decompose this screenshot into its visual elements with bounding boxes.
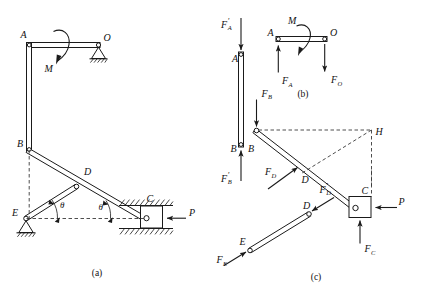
panel-b-label-moment: M	[287, 15, 297, 26]
angle-theta-right	[103, 201, 113, 224]
panel-c-bc-pin-c	[353, 205, 358, 210]
panel-c-ed-label-e: E	[239, 236, 246, 247]
label-a-joint-o: O	[104, 32, 111, 43]
svg-text:B: B	[268, 93, 272, 100]
joint-pin-a	[27, 43, 31, 47]
joint-pin-d	[74, 184, 79, 189]
panel-c-label-fa-prime: F ′ A	[220, 17, 232, 32]
svg-text:B: B	[228, 178, 232, 185]
panel-c-label-fb-prime: F ′ B	[220, 171, 232, 186]
panel-c-dashed-hd	[301, 130, 372, 174]
panel-b-label-fa: F A	[281, 75, 293, 88]
panel-c-member-ab: A B F ′ A F ′ B	[220, 17, 244, 186]
svg-text:A: A	[227, 24, 232, 31]
panel-c-ed-pin-e	[248, 248, 253, 253]
panel-c-label-fe: F E	[216, 254, 228, 267]
panel-c-bc-label-b: B	[248, 143, 254, 154]
panel-c-member-bc: B D C H F B F D F C P	[248, 88, 405, 256]
panel-c-bc-label-c: C	[362, 185, 369, 196]
caption-b: (b)	[297, 89, 308, 100]
panel-b-pin-o	[323, 37, 327, 41]
label-a-moment-m: M	[44, 63, 54, 74]
svg-text:O: O	[338, 80, 343, 87]
label-a-joint-e: E	[11, 207, 18, 218]
panel-c-slider-c	[349, 197, 371, 218]
panel-c-ed-label-d: D	[302, 200, 311, 211]
panel-b-label-a: A	[267, 27, 275, 38]
label-a-theta-right: θ	[99, 202, 104, 212]
panel-c-label-fc: F C	[364, 243, 377, 256]
engineering-figure: A O B D C E M P θ θ (a) A O M	[0, 0, 424, 297]
panel-b-bar-ao	[276, 37, 327, 42]
label-a-force-p: P	[188, 207, 195, 218]
panel-c-force-fd-prime-arrow	[312, 198, 334, 212]
panel-c-group: A B F ′ A F ′ B	[216, 17, 405, 284]
label-a-joint-c: C	[147, 193, 154, 204]
label-a-joint-a: A	[20, 29, 28, 40]
panel-b-pin-a	[276, 37, 280, 41]
member-ab-bar	[27, 43, 32, 151]
panel-c-member-ed: E D F E F ′ D	[216, 182, 335, 267]
angle-theta-left	[49, 200, 60, 223]
panel-b-label-o: O	[330, 27, 337, 38]
mechanism-diagram-canvas: A O B D C E M P θ θ (a) A O M	[0, 0, 424, 297]
support-c-slider-guide	[119, 200, 173, 235]
svg-text:E: E	[222, 260, 227, 267]
caption-c: (c)	[311, 272, 322, 283]
svg-text:C: C	[371, 249, 376, 256]
svg-text:D: D	[271, 172, 277, 179]
svg-text:A: A	[288, 81, 293, 88]
panel-a-group: A O B D C E M P θ θ (a)	[11, 29, 195, 280]
panel-c-label-fd-prime: F ′ D	[319, 182, 332, 197]
label-a-joint-b: B	[17, 138, 23, 149]
panel-c-ab-label-a: A	[231, 53, 239, 64]
panel-c-bc-pin-b	[254, 128, 259, 133]
panel-c-bc-label-h: H	[375, 126, 384, 137]
caption-a: (a)	[92, 268, 103, 279]
member-ao-bar	[27, 43, 100, 48]
panel-c-force-fe-arrow	[224, 252, 246, 266]
panel-c-ed-pin-d	[307, 212, 312, 217]
panel-c-bc-label-d: D	[301, 174, 310, 185]
label-a-theta-left: θ	[60, 200, 65, 210]
panel-c-ab-label-b: B	[231, 143, 237, 154]
panel-c-label-fb: F B	[261, 88, 273, 101]
panel-c-ab-pin-a	[239, 53, 243, 57]
panel-b-label-fo: F O	[330, 74, 343, 87]
label-a-joint-d: D	[83, 166, 92, 177]
support-e-pin	[17, 216, 36, 237]
panel-c-label-p: P	[398, 196, 405, 207]
panel-b-group: A O M F A F O (b)	[267, 15, 343, 100]
panel-c-ab-pin-b	[239, 143, 243, 147]
svg-text:D: D	[325, 189, 331, 196]
panel-c-label-fd: F D	[264, 166, 277, 179]
